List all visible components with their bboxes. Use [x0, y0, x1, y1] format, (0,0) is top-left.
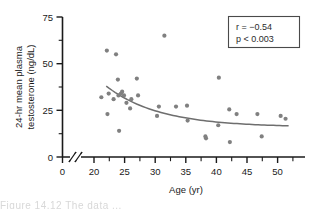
data-point: [228, 140, 232, 144]
x-tick-label-30: 30: [150, 166, 161, 177]
x-tick-label-45: 45: [242, 166, 253, 177]
data-point: [260, 134, 264, 138]
stats-p-value: p < 0.003: [236, 34, 274, 44]
data-point: [99, 95, 103, 99]
y-tick-label-75: 75: [42, 12, 53, 23]
data-point: [155, 114, 159, 118]
data-point: [120, 90, 124, 94]
data-point: [216, 123, 220, 127]
data-point: [227, 107, 231, 111]
y-tick-label-0: 0: [48, 152, 53, 163]
scatter-plot: 75 50 25 0 24-hr mean plasma testosteron…: [0, 0, 310, 209]
data-point: [122, 93, 126, 97]
data-point: [105, 112, 109, 116]
data-point: [135, 77, 139, 81]
data-point: [107, 91, 111, 95]
y-axis-title-line2: testosterone (ng/dL): [25, 44, 36, 129]
x-axis-title: Age (yr): [169, 184, 203, 195]
x-tick-label-35: 35: [181, 166, 192, 177]
figure-caption-fragment: Figure 14.12 The data ...: [0, 200, 310, 209]
x-axis-break-mask: [70, 154, 81, 161]
data-point: [279, 114, 283, 118]
y-axis-title: 24-hr mean plasma testosterone (ng/dL): [13, 44, 36, 129]
data-point: [162, 34, 166, 38]
stats-r-value: r = −0.54: [236, 22, 272, 32]
data-point: [117, 129, 121, 133]
data-point: [235, 112, 239, 116]
data-point: [174, 105, 178, 109]
data-point: [157, 105, 161, 109]
data-point: [217, 76, 221, 80]
data-point: [185, 104, 189, 108]
data-point: [186, 119, 190, 123]
x-tick-label-40: 40: [211, 166, 222, 177]
data-point: [114, 52, 118, 56]
trend-curve: [106, 86, 288, 126]
data-point: [124, 101, 128, 105]
y-tick-label-25: 25: [42, 105, 53, 116]
data-point: [129, 97, 133, 101]
data-point: [283, 117, 287, 121]
data-point: [105, 49, 109, 53]
y-axis-title-line1: 24-hr mean plasma: [13, 45, 24, 128]
data-points-group: [99, 34, 287, 145]
data-point: [204, 136, 208, 140]
x-tick-label-25: 25: [119, 166, 130, 177]
data-point: [136, 93, 140, 97]
data-point: [255, 112, 259, 116]
stats-annotation: r = −0.54 p < 0.003: [229, 17, 300, 48]
data-point: [116, 77, 120, 81]
x-tick-label-0: 0: [60, 166, 65, 177]
x-tick-label-50: 50: [272, 166, 283, 177]
y-tick-label-50: 50: [42, 58, 53, 69]
data-point: [111, 97, 115, 101]
x-tick-label-20: 20: [89, 166, 100, 177]
data-point: [128, 106, 132, 110]
x-axis-major-ticks: [94, 157, 278, 163]
figure-container: 75 50 25 0 24-hr mean plasma testosteron…: [0, 0, 310, 209]
